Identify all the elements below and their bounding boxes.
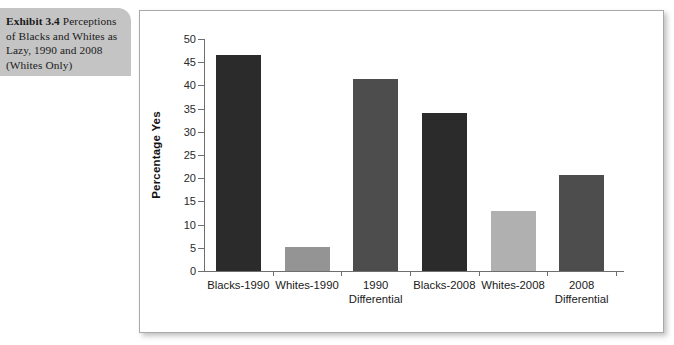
bar: [422, 113, 467, 271]
x-tick-label: Whites-2008: [481, 278, 544, 292]
y-tick-label: 40: [184, 79, 196, 91]
x-tick-label: 1990Differential: [349, 278, 403, 306]
y-tick-label: 20: [184, 172, 196, 184]
x-tick-label-line: Blacks-2008: [413, 278, 475, 292]
y-tick-mark: [198, 155, 204, 156]
y-tick-mark: [198, 132, 204, 133]
y-tick-mark: [198, 39, 204, 40]
x-tick-mark: [479, 271, 480, 276]
x-tick-mark: [410, 271, 411, 276]
y-tick-label: 15: [184, 195, 196, 207]
y-tick-label: 45: [184, 56, 196, 68]
y-tick-label: 0: [190, 265, 196, 277]
chart-panel: Percentage Yes 05101520253035404550 Blac…: [139, 10, 664, 333]
bar: [216, 55, 261, 271]
y-tick-mark: [198, 225, 204, 226]
y-tick-label: 5: [190, 242, 196, 254]
y-tick-label: 10: [184, 219, 196, 231]
x-axis-labels: Blacks-1990Whites-19901990DifferentialBl…: [204, 278, 616, 318]
y-tick-label: 30: [184, 126, 196, 138]
y-axis-title: Percentage Yes: [148, 39, 164, 271]
x-axis-line: [204, 271, 624, 272]
y-tick-label: 50: [184, 33, 196, 45]
x-tick-label: Blacks-2008: [413, 278, 475, 292]
x-tick-label: Whites-1990: [275, 278, 338, 292]
bar: [559, 175, 604, 271]
x-tick-label-line: Whites-2008: [481, 278, 544, 292]
bar: [353, 79, 398, 271]
x-tick-label-line: Differential: [555, 292, 609, 306]
y-tick-mark: [198, 271, 204, 272]
x-tick-label-line: Differential: [349, 292, 403, 306]
y-tick-label: 25: [184, 149, 196, 161]
x-tick-label-line: 1990: [349, 278, 403, 292]
y-tick-label: 35: [184, 103, 196, 115]
x-tick-mark: [273, 271, 274, 276]
x-tick-mark: [616, 271, 617, 276]
exhibit-caption-text: Exhibit 3.4 Perceptions of Blacks and Wh…: [6, 14, 122, 72]
x-tick-label: 2008Differential: [555, 278, 609, 306]
exhibit-caption-box: Exhibit 3.4 Perceptions of Blacks and Wh…: [0, 8, 131, 76]
y-tick-mark: [198, 178, 204, 179]
y-tick-mark: [198, 248, 204, 249]
x-tick-label-line: Blacks-1990: [207, 278, 269, 292]
exhibit-number-label: Exhibit 3.4: [6, 15, 60, 27]
bar: [491, 211, 536, 271]
x-tick-label-line: Whites-1990: [275, 278, 338, 292]
plot-area: 05101520253035404550: [204, 39, 616, 271]
x-tick-mark: [547, 271, 548, 276]
y-tick-mark: [198, 62, 204, 63]
x-tick-label-line: 2008: [555, 278, 609, 292]
x-tick-label: Blacks-1990: [207, 278, 269, 292]
x-tick-mark: [341, 271, 342, 276]
y-axis-title-label: Percentage Yes: [150, 111, 162, 199]
bar: [285, 247, 330, 271]
y-tick-mark: [198, 109, 204, 110]
y-tick-mark: [198, 201, 204, 202]
y-tick-mark: [198, 85, 204, 86]
